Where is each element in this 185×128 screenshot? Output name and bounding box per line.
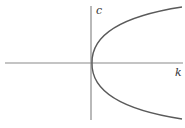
vertical-axis-label: c: [96, 4, 102, 17]
horizontal-axis-label: k: [175, 66, 182, 79]
parabola-diagram: c k: [0, 0, 185, 128]
diagram-canvas: c k: [0, 0, 185, 128]
